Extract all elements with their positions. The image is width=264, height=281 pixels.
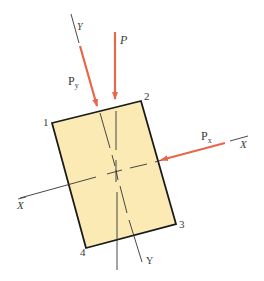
label-axis-x-left: X (16, 197, 26, 211)
corner-3-label: 3 (179, 218, 185, 230)
load-diagram: P Py Px Y Y X X 1 2 3 4 (0, 0, 264, 281)
label-axis-x-right: X (239, 138, 248, 150)
label-axis-y-bottom: Y (146, 255, 153, 266)
cross-section (52, 101, 176, 248)
svg-text:X: X (16, 199, 25, 211)
corner-1-label: 1 (43, 116, 49, 128)
corner-2-label: 2 (144, 90, 150, 102)
load-px-arrow (161, 143, 225, 160)
load-py-arrow (80, 46, 97, 106)
label-axis-y-top: Y (77, 21, 84, 32)
svg-text:X: X (239, 138, 248, 150)
label-px: Px (201, 129, 212, 145)
label-load-p: P (119, 33, 128, 47)
label-py: Py (68, 74, 79, 90)
corner-4-label: 4 (80, 246, 86, 258)
